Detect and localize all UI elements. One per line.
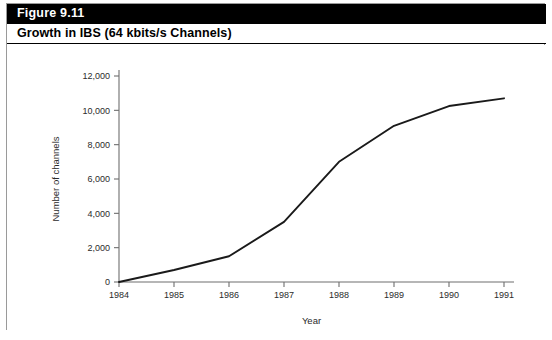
- y-axis-tick-label: 6,000: [87, 174, 110, 184]
- chart-plot-area: 02,0004,0006,0008,00010,00012,000 198419…: [7, 45, 546, 330]
- y-axis-group: 02,0004,0006,0008,00010,00012,000: [82, 70, 119, 287]
- y-axis-tick-label: 4,000: [87, 209, 110, 219]
- x-axis-title: Year: [302, 315, 321, 326]
- y-axis-tick-label: 12,000: [82, 71, 110, 81]
- figure-title-label: Growth in IBS (64 kbits/s Channels): [17, 26, 232, 40]
- figure-number-label: Figure 9.11: [17, 6, 85, 20]
- x-axis-tick-label: 1989: [384, 290, 404, 300]
- x-axis-tick-label: 1988: [329, 290, 349, 300]
- x-axis-tick-label: 1987: [274, 290, 294, 300]
- y-axis-tick-labels: 02,0004,0006,0008,00010,00012,000: [82, 71, 110, 287]
- x-axis-tick-labels: 19841985198619871988198919901991: [109, 290, 514, 300]
- figure-title-row: Growth in IBS (64 kbits/s Channels): [7, 24, 546, 44]
- y-axis-tick-label: 2,000: [87, 243, 110, 253]
- y-axis-tick-label: 10,000: [82, 106, 110, 116]
- figure-number-band: Figure 9.11: [7, 4, 546, 24]
- line-chart: 02,0004,0006,0008,00010,00012,000 198419…: [7, 45, 546, 330]
- x-axis-group: 19841985198619871988198919901991: [109, 282, 514, 300]
- y-axis-tick-label: 0: [105, 277, 110, 287]
- x-axis-tick-label: 1990: [439, 290, 459, 300]
- data-series-line: [119, 98, 504, 282]
- figure-card: Figure 9.11 Growth in IBS (64 kbits/s Ch…: [6, 3, 545, 330]
- x-axis-tick-label: 1985: [164, 290, 184, 300]
- x-axis-tick-label: 1991: [494, 290, 514, 300]
- x-axis-tick-label: 1986: [219, 290, 239, 300]
- y-axis-title: Number of channels: [50, 136, 61, 221]
- x-axis-ticks: [119, 282, 504, 287]
- y-axis-ticks: [114, 76, 119, 282]
- x-axis-tick-label: 1984: [109, 290, 129, 300]
- y-axis-tick-label: 8,000: [87, 140, 110, 150]
